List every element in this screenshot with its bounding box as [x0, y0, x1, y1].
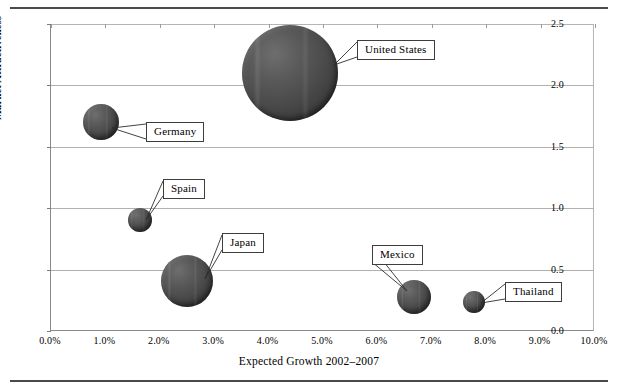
callout-label-spain[interactable]: Spain	[163, 179, 205, 199]
bubble-mexico[interactable]	[397, 280, 431, 314]
x-tick-mark	[377, 24, 378, 28]
bubble-germany[interactable]	[83, 104, 119, 140]
y-tick-mark	[47, 147, 51, 148]
callout-label-mexico[interactable]: Mexico	[372, 245, 423, 265]
bubble-chart-figure: Market Attractiveness Expected Growth 20…	[0, 0, 618, 389]
bubble-spain[interactable]	[128, 208, 152, 232]
x-tick-mark	[595, 24, 596, 28]
figure-bottom-rule	[10, 380, 608, 382]
gridline-y	[51, 208, 593, 209]
y-tick-label: 1.0	[534, 203, 564, 213]
y-tick-mark	[47, 85, 51, 86]
x-tick-mark	[486, 24, 487, 28]
x-tick-label: 10.0%	[571, 336, 617, 346]
x-tick-label: 6.0%	[353, 336, 399, 346]
y-tick-label: 1.5	[534, 142, 564, 152]
gridline-y	[51, 270, 593, 271]
bubble-thailand[interactable]	[463, 291, 485, 313]
callout-label-germany[interactable]: Germany	[146, 122, 204, 142]
x-tick-mark	[51, 24, 52, 28]
bubble-japan[interactable]	[161, 255, 213, 307]
y-tick-label: 2.0	[534, 80, 564, 90]
bubble-united-states[interactable]	[242, 25, 338, 121]
y-tick-label: 0.5	[534, 265, 564, 275]
x-axis-title: Expected Growth 2002–2007	[0, 355, 618, 367]
callout-label-united-states[interactable]: United States	[357, 40, 435, 60]
figure-top-rule	[10, 7, 608, 9]
y-axis-title: Market Attractiveness	[0, 16, 3, 120]
x-tick-label: 2.0%	[136, 336, 182, 346]
x-tick-label: 3.0%	[190, 336, 236, 346]
x-tick-label: 8.0%	[462, 336, 508, 346]
x-tick-mark	[432, 24, 433, 28]
x-tick-label: 0.0%	[27, 336, 73, 346]
y-tick-label: 2.5	[534, 19, 564, 29]
x-tick-label: 5.0%	[299, 336, 345, 346]
x-tick-label: 1.0%	[81, 336, 127, 346]
x-tick-label: 9.0%	[517, 336, 563, 346]
x-tick-mark	[323, 24, 324, 28]
y-tick-mark	[47, 208, 51, 209]
gridline-y	[51, 147, 593, 148]
x-tick-label: 4.0%	[245, 336, 291, 346]
gridline-y	[51, 24, 593, 25]
callout-label-thailand[interactable]: Thailand	[505, 282, 562, 302]
x-tick-mark	[269, 24, 270, 28]
y-tick-mark	[47, 331, 51, 332]
x-tick-mark	[105, 24, 106, 28]
callout-label-japan[interactable]: Japan	[222, 233, 264, 253]
y-tick-mark	[47, 270, 51, 271]
x-tick-label: 7.0%	[408, 336, 454, 346]
x-tick-mark	[160, 24, 161, 28]
x-tick-mark	[214, 24, 215, 28]
